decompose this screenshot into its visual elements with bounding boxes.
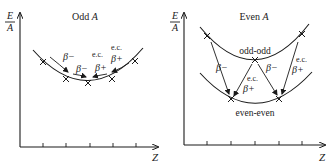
isobar-cross-icon [63,76,69,82]
panel-title: Even A [239,11,269,22]
panel-title: Odd A [72,11,99,22]
label-electron-capture: e.c. [247,74,258,83]
even-even-label: even-even [235,108,274,118]
isobar-cross-icon [109,76,115,82]
label-beta-minus: β− [265,62,278,73]
x-axis-ticks [43,143,136,147]
x-axis-ticks [207,141,302,145]
label-beta-minus: β− [215,62,228,73]
label-beta-plus: β+ [242,83,255,94]
label-electron-capture: e.c. [111,43,122,52]
x-axis-label: Z [319,151,326,163]
panel-even-a: E A Z Even A odd-odd even-even β− [170,10,326,163]
x-axis-label: Z [152,151,159,163]
label-beta-plus: β+ [110,53,123,64]
isobar-cross-icon [204,33,210,39]
panel-odd-a: E A Z Odd A β− β− e.c. β+ e.c. β+ [5,10,159,163]
label-beta-plus: β+ [94,62,107,73]
y-axis-label-numerator: E [171,10,178,21]
arrow-beta-plus-1 [93,74,107,77]
label-electron-capture: e.c. [296,55,307,64]
arrow-beta-minus-2 [73,74,86,77]
y-axis-label-denominator: A [171,22,179,33]
isobar-markers [40,58,138,86]
label-beta-minus: β− [75,63,88,74]
label-beta-plus: β+ [291,64,304,75]
isobar-cross-icon [132,58,138,64]
y-axis-label-denominator: A [6,22,14,33]
odd-odd-label: odd-odd [239,46,271,56]
label-electron-capture: e.c. [92,50,103,59]
y-axis-label-numerator: E [6,10,13,21]
arrow-beta-plus-2 [112,63,129,72]
beta-decay-parabola-diagram: E A Z Odd A β− β− e.c. β+ e.c. β+ [0,0,334,167]
label-beta-minus: β− [62,51,75,62]
